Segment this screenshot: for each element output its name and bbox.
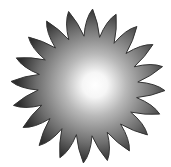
sun-icon	[0, 0, 171, 167]
sun-illustration	[0, 0, 171, 167]
